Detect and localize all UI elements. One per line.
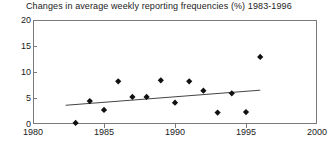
data-point bbox=[215, 109, 221, 115]
data-layer bbox=[0, 0, 329, 148]
data-point bbox=[257, 54, 263, 60]
data-point bbox=[73, 120, 79, 126]
chart-figure: Changes in average weekly reporting freq… bbox=[0, 0, 329, 148]
data-point bbox=[101, 107, 107, 113]
data-point bbox=[186, 78, 192, 84]
data-point bbox=[115, 78, 121, 84]
data-point bbox=[243, 109, 249, 115]
data-point bbox=[158, 77, 164, 83]
data-point bbox=[200, 88, 206, 94]
data-point bbox=[172, 100, 178, 106]
data-point-group bbox=[73, 54, 264, 126]
data-point bbox=[129, 94, 135, 100]
data-point bbox=[229, 90, 235, 96]
